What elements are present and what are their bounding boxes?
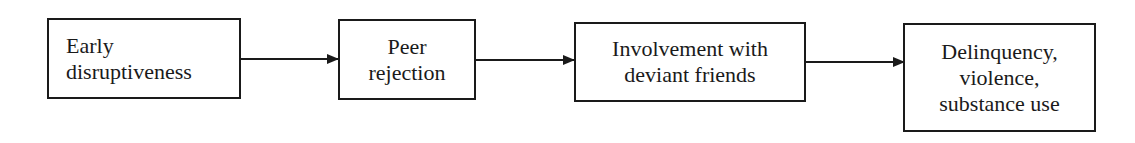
node-label-line: rejection <box>369 60 446 86</box>
node-label-line: Early <box>66 33 114 59</box>
node-peer-rejection: Peer rejection <box>338 19 476 100</box>
node-label-line: Involvement with <box>612 36 768 62</box>
node-early-disruptiveness: Early disruptiveness <box>47 18 241 99</box>
node-label-line: violence, <box>959 65 1039 91</box>
node-label-line: deviant friends <box>624 62 755 88</box>
node-involvement-deviant-friends: Involvement with deviant friends <box>574 22 806 102</box>
node-label-line: disruptiveness <box>66 59 192 85</box>
node-delinquency-violence-substance-use: Delinquency, violence, substance use <box>903 23 1096 132</box>
node-label-line: Delinquency, <box>941 39 1057 65</box>
node-label-line: Peer <box>387 34 426 60</box>
node-label-line: substance use <box>939 91 1059 117</box>
